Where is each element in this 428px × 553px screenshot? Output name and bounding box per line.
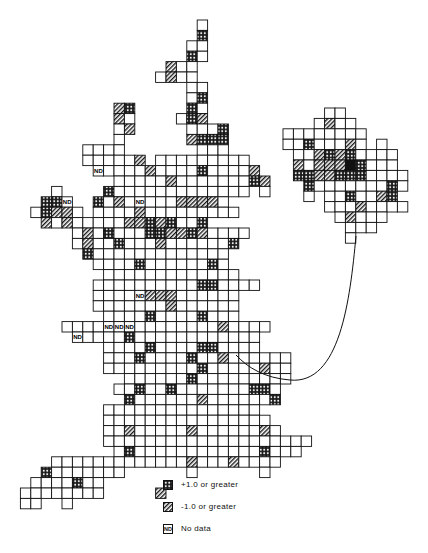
grid-cell bbox=[239, 342, 249, 352]
grid-cell bbox=[335, 191, 345, 201]
grid-cell bbox=[260, 436, 270, 446]
grid-cell bbox=[135, 207, 145, 217]
grid-cell bbox=[156, 218, 166, 228]
grid-cell bbox=[166, 270, 176, 280]
grid-cell bbox=[228, 446, 238, 456]
legend-item-no-data: ND No data bbox=[163, 522, 238, 535]
grid-cell bbox=[249, 332, 259, 342]
grid-cell bbox=[124, 238, 134, 248]
grid-cell bbox=[104, 270, 114, 280]
grid-cell bbox=[83, 478, 93, 488]
grid-cell bbox=[72, 467, 82, 477]
grid-cell bbox=[104, 405, 114, 415]
grid-cell bbox=[104, 197, 114, 207]
grid-cell bbox=[156, 228, 166, 238]
grid-cell bbox=[270, 457, 280, 467]
grid-cell bbox=[187, 301, 197, 311]
grid-cell bbox=[218, 322, 228, 332]
grid-cell bbox=[187, 82, 197, 92]
grid-cell bbox=[93, 301, 103, 311]
nd-label: ND bbox=[136, 293, 145, 299]
grid-cell bbox=[62, 467, 72, 477]
grid-cell bbox=[314, 139, 324, 149]
grid-cell bbox=[187, 238, 197, 248]
grid-cell bbox=[83, 238, 93, 248]
grid-cell bbox=[377, 202, 387, 212]
grid-cell bbox=[145, 342, 155, 352]
grid-cell bbox=[239, 332, 249, 342]
grid-cell bbox=[166, 207, 176, 217]
grid-cell bbox=[135, 446, 145, 456]
grid-cell bbox=[187, 134, 197, 144]
grid-cell bbox=[166, 259, 176, 269]
grid-cell bbox=[187, 280, 197, 290]
grid-cell bbox=[197, 394, 207, 404]
grid-cell bbox=[208, 290, 218, 300]
grid-cell bbox=[104, 207, 114, 217]
grid-cell bbox=[239, 228, 249, 238]
grid-cell bbox=[260, 186, 270, 196]
grid-cell bbox=[114, 446, 124, 456]
grid-cell bbox=[314, 181, 324, 191]
grid-cell bbox=[304, 160, 314, 170]
grid-cell bbox=[145, 176, 155, 186]
grid-cell bbox=[228, 457, 238, 467]
grid-cell bbox=[166, 186, 176, 196]
grid-cell bbox=[291, 436, 301, 446]
grid-cell bbox=[83, 155, 93, 165]
grid-cell bbox=[356, 139, 366, 149]
grid-cell bbox=[124, 280, 134, 290]
grid-cell bbox=[41, 488, 51, 498]
grid-cell bbox=[345, 222, 355, 232]
grid-cell bbox=[166, 415, 176, 425]
grid-cell bbox=[208, 342, 218, 352]
main-map: NDNDNDNDNDNDNDND bbox=[20, 20, 311, 509]
grid-cell bbox=[249, 457, 259, 467]
grid-cell bbox=[356, 191, 366, 201]
grid-cell bbox=[83, 218, 93, 228]
grid-cell bbox=[335, 170, 345, 180]
grid-cell bbox=[335, 118, 345, 128]
grid-cell bbox=[187, 332, 197, 342]
grid-cell bbox=[166, 457, 176, 467]
grid-cell bbox=[156, 155, 166, 165]
grid-cell bbox=[208, 301, 218, 311]
grid-cell bbox=[124, 114, 134, 124]
grid-cell bbox=[260, 415, 270, 425]
grid-cell bbox=[314, 129, 324, 139]
grid-cell bbox=[124, 394, 134, 404]
grid-cell bbox=[187, 426, 197, 436]
grid-cell bbox=[135, 415, 145, 425]
grid-cell bbox=[176, 457, 186, 467]
grid-cell bbox=[93, 228, 103, 238]
grid-cell bbox=[249, 353, 259, 363]
grid-cell bbox=[197, 82, 207, 92]
grid-cell bbox=[145, 311, 155, 321]
grid-cell bbox=[52, 457, 62, 467]
grid-cell bbox=[104, 426, 114, 436]
grid-cell bbox=[304, 139, 314, 149]
nd-label: ND bbox=[104, 324, 113, 330]
grid-cell bbox=[156, 311, 166, 321]
grid-cell bbox=[114, 332, 124, 342]
grid-cell bbox=[187, 155, 197, 165]
grid-cell bbox=[124, 186, 134, 196]
grid-cell bbox=[228, 374, 238, 384]
grid-cell bbox=[135, 155, 145, 165]
grid-cell bbox=[166, 249, 176, 259]
grid-cell bbox=[187, 342, 197, 352]
grid-cell bbox=[124, 342, 134, 352]
grid-cell bbox=[387, 181, 397, 191]
grid-cell bbox=[114, 197, 124, 207]
grid-cell bbox=[114, 467, 124, 477]
grid-cell bbox=[135, 301, 145, 311]
grid-cell bbox=[145, 332, 155, 342]
grid-cell bbox=[197, 457, 207, 467]
grid-cell bbox=[208, 353, 218, 363]
grid-cell bbox=[218, 207, 228, 217]
grid-cell bbox=[83, 488, 93, 498]
grid-cell bbox=[176, 363, 186, 373]
grid-cell bbox=[335, 212, 345, 222]
grid-cell bbox=[260, 353, 270, 363]
grid-cell bbox=[197, 332, 207, 342]
